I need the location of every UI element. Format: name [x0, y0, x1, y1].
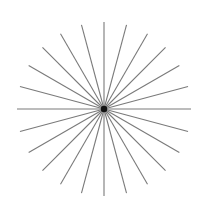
starburst-figure — [0, 0, 213, 211]
ray-line — [104, 86, 188, 109]
ray-line — [81, 109, 104, 193]
ray-line — [104, 109, 188, 132]
ray-line — [20, 109, 104, 132]
center-dot — [101, 106, 107, 112]
ray-line — [104, 109, 127, 193]
starburst-svg — [0, 0, 213, 211]
ray-line — [104, 25, 127, 109]
ray-line — [81, 25, 104, 109]
ray-line — [20, 86, 104, 109]
